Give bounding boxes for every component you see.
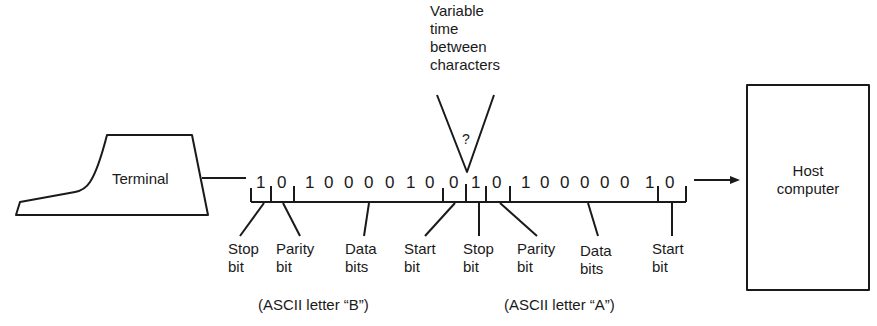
label-parity-a-2: bit: [517, 258, 533, 276]
label-stop-b-1: Stop: [228, 240, 259, 258]
label-stop-a-2: bit: [463, 258, 479, 276]
bit: 0: [492, 174, 501, 192]
bit: 0: [580, 174, 589, 192]
label-data-b-2: bits: [345, 258, 368, 276]
host-label-line-2: computer: [747, 180, 869, 198]
bit: 0: [364, 174, 373, 192]
variable-time-line-1: Variable: [430, 2, 484, 20]
bit: 0: [665, 174, 674, 192]
bit: 1: [305, 174, 314, 192]
bit: 0: [620, 174, 629, 192]
host-label-line-1: Host: [747, 162, 869, 180]
label-stop-a-1: Stop: [463, 240, 494, 258]
bit: 0: [560, 174, 569, 192]
bit: 0: [540, 174, 549, 192]
label-start-b-2: bit: [404, 258, 420, 276]
bit: 0: [449, 174, 458, 192]
terminal-label: Terminal: [112, 170, 169, 188]
bit: 1: [406, 174, 415, 192]
label-stop-b-2: bit: [228, 258, 244, 276]
variable-time-line-3: between: [430, 38, 487, 56]
bit: 0: [324, 174, 333, 192]
label-parity-a-1: Parity: [517, 240, 555, 258]
variable-time-line-2: time: [430, 20, 458, 38]
bit: 0: [600, 174, 609, 192]
label-data-a-1: Data: [580, 242, 612, 260]
bit: 1: [645, 174, 654, 192]
label-parity-b-1: Parity: [276, 240, 314, 258]
bit: 1: [256, 174, 265, 192]
bit: 1: [471, 174, 480, 192]
bit: 0: [277, 174, 286, 192]
bit: 1: [521, 174, 530, 192]
bit: 0: [425, 174, 434, 192]
caption-ascii-a: (ASCII letter “A”): [504, 296, 615, 314]
label-parity-b-2: bit: [276, 258, 292, 276]
question-mark: ?: [462, 130, 470, 148]
variable-time-line-4: characters: [430, 56, 500, 74]
label-start-a-2: bit: [652, 258, 668, 276]
bit: 0: [344, 174, 353, 192]
label-start-b-1: Start: [404, 240, 436, 258]
bit: 0: [385, 174, 394, 192]
caption-ascii-b: (ASCII letter “B”): [258, 296, 369, 314]
label-start-a-1: Start: [652, 240, 684, 258]
label-data-b-1: Data: [345, 240, 377, 258]
label-data-a-2: bits: [580, 260, 603, 278]
